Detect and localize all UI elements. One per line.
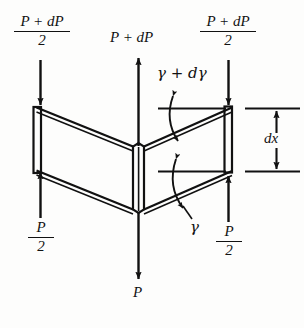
dx-dimension-label: dx [264,131,278,146]
upper-shear-angle-label: γ + dγ [157,66,207,81]
bottom-right-force-numerator: P [216,224,242,242]
bottom-center-force-label: P [133,285,142,300]
bottom-left-force-denominator: 2 [28,238,54,255]
top-right-force-numerator: P + dP [200,14,256,32]
left-arm-upper-edge-inner [37,112,134,151]
top-right-force-denominator: 2 [200,32,256,49]
top-left-force-denominator: 2 [14,32,70,49]
left-arm-upper-edge [37,108,134,147]
right-end-bar [225,107,233,173]
right-arm-upper-edge [144,108,232,147]
bottom-right-force-label: P 2 [216,224,242,259]
element-body [34,107,233,215]
left-arm-lower-edge-inner [37,175,134,214]
right-arm-upper-edge-inner [144,112,232,151]
top-left-force-label: P + dP 2 [14,14,70,49]
right-arm-lower-edge-inner [144,176,232,215]
bottom-right-force-denominator: 2 [216,242,242,259]
left-arm-lower-edge [37,171,134,210]
top-left-force-numerator: P + dP [14,14,70,32]
force-arrows [41,58,229,279]
lower-shear-angle-label: γ [190,220,199,235]
left-end-bar [34,107,42,173]
top-right-force-label: P + dP 2 [200,14,256,49]
bottom-left-force-numerator: P [28,220,54,238]
free-body-diagram [0,0,304,328]
top-center-force-label: P + dP [110,30,153,45]
right-arm-lower-edge [144,171,232,210]
bottom-left-force-label: P 2 [28,220,54,255]
